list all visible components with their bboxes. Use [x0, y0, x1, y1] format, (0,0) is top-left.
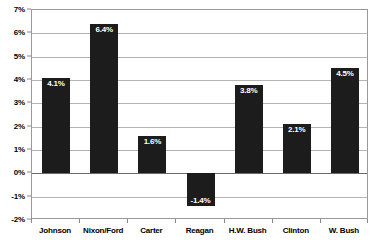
bar-value-label: 4.5%	[331, 69, 359, 78]
bar-group[interactable]: 1.6%	[138, 10, 166, 218]
bar-value-label: 3.8%	[235, 86, 263, 95]
bar[interactable]: -1.4%	[187, 173, 215, 206]
bar-value-label: 4.1%	[42, 79, 70, 88]
bar[interactable]: 1.6%	[138, 136, 166, 173]
y-axis-tick-label: 5%	[14, 51, 25, 60]
bar-group[interactable]: 4.5%	[331, 10, 359, 218]
x-axis-tick-mark	[367, 219, 368, 223]
x-axis-tick-mark	[79, 219, 80, 223]
bar-group[interactable]: 3.8%	[235, 10, 263, 218]
bar[interactable]: 4.5%	[331, 68, 359, 173]
y-axis-tick-label: 3%	[14, 98, 25, 107]
x-axis-tick-mark	[127, 219, 128, 223]
bar-value-label: 6.4%	[90, 25, 118, 34]
x-axis-category-label: H.W. Bush	[229, 226, 267, 236]
y-axis-tick-label: 6%	[14, 28, 25, 37]
x-axis-category-label: W. Bush	[329, 226, 359, 236]
x-axis-tick-mark	[175, 219, 176, 223]
x-axis-category-label: Reagan	[186, 226, 214, 236]
x-axis-category-label: Clinton	[283, 226, 309, 236]
x-axis-tick-mark	[224, 219, 225, 223]
bar-group[interactable]: 2.1%	[283, 10, 311, 218]
bar[interactable]: 4.1%	[42, 78, 70, 174]
y-axis-tick-label: 7%	[14, 5, 25, 14]
y-axis-tick-label: 0%	[14, 168, 25, 177]
x-axis-tick-mark	[320, 219, 321, 223]
x-axis-ticks	[31, 219, 368, 224]
bars-layer: 4.1%6.4%1.6%-1.4%3.8%2.1%4.5%	[32, 10, 367, 218]
bar[interactable]: 3.8%	[235, 85, 263, 174]
x-axis-category-label: Nixon/Ford	[83, 226, 123, 236]
bar-value-label: 2.1%	[283, 125, 311, 134]
bar-chart: 7%6%5%4%3%2%1%0%-1%-2% 4.1%6.4%1.6%-1.4%…	[0, 0, 380, 240]
y-axis-tick-label: 4%	[14, 75, 25, 84]
bar-group[interactable]: 4.1%	[42, 10, 70, 218]
bar-group[interactable]: 6.4%	[90, 10, 118, 218]
y-axis-tick-label: 1%	[14, 145, 25, 154]
x-axis-labels: JohnsonNixon/FordCarterReaganH.W. BushCl…	[31, 226, 368, 240]
bar[interactable]: 2.1%	[283, 124, 311, 173]
y-axis-tick-label: -1%	[11, 191, 25, 200]
x-axis-tick-mark	[31, 219, 32, 223]
x-axis-category-label: Carter	[140, 226, 162, 236]
y-axis: 7%6%5%4%3%2%1%0%-1%-2%	[0, 0, 28, 240]
bar-value-label: 1.6%	[138, 137, 166, 146]
x-axis-category-label: Johnson	[39, 226, 71, 236]
y-axis-tick-label: -2%	[11, 215, 25, 224]
y-axis-tick-label: 2%	[14, 121, 25, 130]
x-axis-tick-mark	[272, 219, 273, 223]
bar-value-label: -1.4%	[187, 196, 215, 205]
bar-group[interactable]: -1.4%	[187, 10, 215, 218]
bar[interactable]: 6.4%	[90, 24, 118, 173]
plot-area: 4.1%6.4%1.6%-1.4%3.8%2.1%4.5%	[31, 9, 368, 219]
